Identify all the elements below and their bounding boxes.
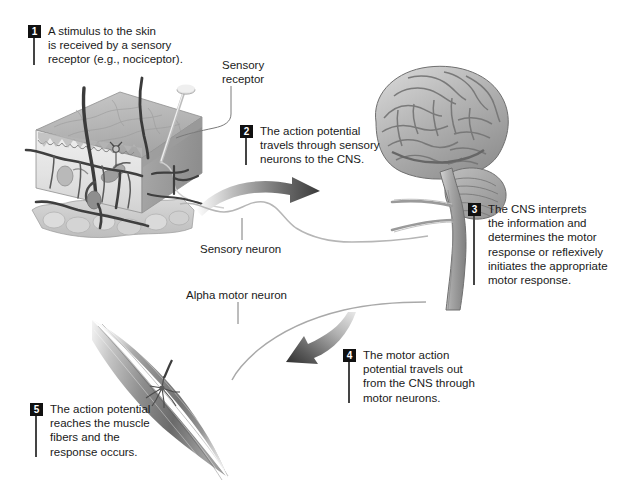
alpha-motor-neuron-label: Alpha motor neuron xyxy=(186,288,287,302)
step-5-rule xyxy=(35,416,37,457)
muscle-illustration xyxy=(86,316,266,486)
step-2: 2 The action potential travels through s… xyxy=(240,124,400,167)
step-4-number: 4 xyxy=(343,349,356,362)
step-4: 4 The motor action potential travels out… xyxy=(343,348,493,405)
step-5-text: The action potential reaches the muscle … xyxy=(50,402,150,459)
step-2-number: 2 xyxy=(240,125,253,138)
sensory-receptor-label: Sensory receptor xyxy=(222,58,264,86)
step-3: 3 The CNS interprets the information and… xyxy=(468,202,614,287)
step-3-rule xyxy=(473,216,475,285)
step-1-text: A stimulus to the skin is received by a … xyxy=(48,24,183,67)
step-2-rule xyxy=(245,138,247,165)
step-3-number: 3 xyxy=(468,203,481,216)
step-1-number: 1 xyxy=(28,25,41,38)
alpha-motor-neuron-leader xyxy=(232,302,244,324)
terminal-axon xyxy=(164,360,172,378)
step-1-rule xyxy=(33,38,35,65)
sensory-neuron-label: Sensory neuron xyxy=(200,242,281,256)
step-4-rule xyxy=(348,362,350,403)
sensory-neuron-leader xyxy=(236,218,248,240)
step-3-text: The CNS interprets the information and d… xyxy=(488,202,608,287)
step-5: 5 The action potential reaches the muscl… xyxy=(30,402,190,459)
step-5-number: 5 xyxy=(30,403,43,416)
step-1: 1 A stimulus to the skin is received by … xyxy=(28,24,218,67)
step-2-text: The action potential travels through sen… xyxy=(260,124,380,167)
reflex-arc-figure: 1 A stimulus to the skin is received by … xyxy=(0,0,620,494)
sensory-receptor-leader xyxy=(176,86,246,152)
step-4-text: The motor action potential travels out f… xyxy=(363,348,475,405)
spinal-nerve-roots xyxy=(392,201,453,230)
